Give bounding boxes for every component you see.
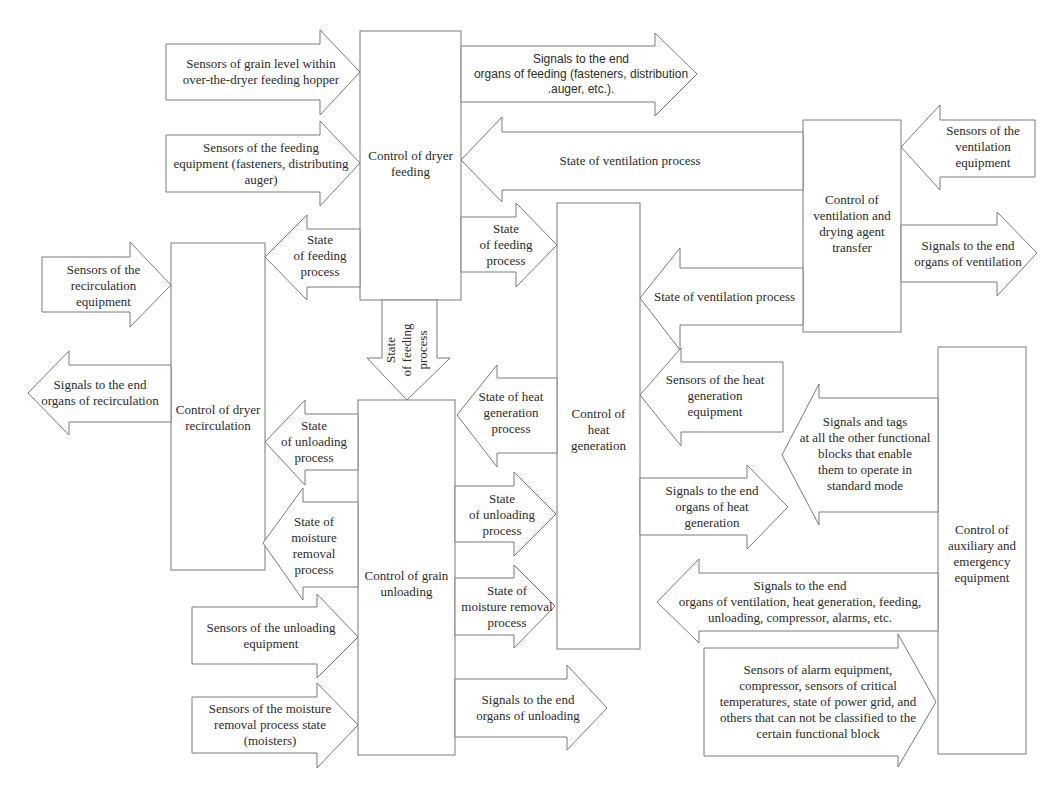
label-state-feeding-to-unloading: State of feeding process: [383, 303, 431, 397]
label-sensors-heat: Sensors of the heat generation equipment: [650, 363, 780, 429]
label-state-ventilation-to-heat: State of ventilation process: [642, 268, 807, 325]
functional-block-diagram: Control of dryer feeding Control of vent…: [0, 0, 1063, 791]
label-sensors-alarm: Sensors of alarm equipment, compressor, …: [712, 648, 924, 756]
label-signals-auxiliary: Signals to the end organs of ventilation…: [664, 574, 936, 630]
label-signals-unloading: Signals to the end organs of unloading: [460, 679, 596, 737]
label-state-heat-to-unloading: State of heat generation process: [465, 382, 557, 444]
label-sensors-feeding-equipment: Sensors of the feeding equipment (fasten…: [166, 135, 356, 192]
label-state-moisture-to-heat: State of moisture removal process: [455, 577, 559, 637]
label-state-unloading-to-recirculation: State of unloading process: [270, 412, 358, 472]
label-sensors-ventilation: Sensors of the ventilation equipment: [922, 112, 1044, 182]
label-state-feeding-to-recirculation: State of feeding process: [280, 226, 360, 286]
label-signals-ventilation: Signals to the end organs of ventilation: [905, 225, 1031, 282]
label-sensors-grain-level: Sensors of grain level within over-the-d…: [172, 44, 350, 100]
label-signals-feeding: Signals to the end organs of feeding (fa…: [470, 46, 692, 102]
block-recirculation-label: Control of dryer recirculation: [171, 400, 265, 436]
label-signals-recirculation: Signals to the end organs of recirculati…: [30, 367, 170, 419]
label-state-ventilation-to-feeding: State of ventilation process: [500, 132, 760, 190]
label-sensors-recirculation: Sensors of the recirculation equipment: [46, 256, 161, 316]
label-state-feeding-to-heat: State of feeding process: [466, 215, 546, 275]
label-state-unloading-to-heat: State of unloading process: [457, 485, 547, 545]
block-ventilation-label: Control of ventilation and drying agent …: [803, 190, 901, 258]
block-feeding-label: Control of dryer feeding: [360, 140, 461, 188]
label-state-moisture-to-recirculation: State of moisture removal process: [278, 510, 350, 582]
label-signals-heat: Signals to the end organs of heat genera…: [646, 478, 778, 536]
block-heat-label: Control of heat generation: [557, 404, 640, 456]
block-unloading-label: Control of grain unloading: [358, 566, 455, 602]
block-auxiliary-label: Control of auxiliary and emergency equip…: [938, 520, 1026, 588]
label-sensors-moisture: Sensors of the moisture removal process …: [196, 696, 344, 754]
label-signals-and-tags: Signals and tags at all the other functi…: [790, 400, 940, 508]
label-sensors-unloading: Sensors of the unloading equipment: [196, 607, 346, 664]
